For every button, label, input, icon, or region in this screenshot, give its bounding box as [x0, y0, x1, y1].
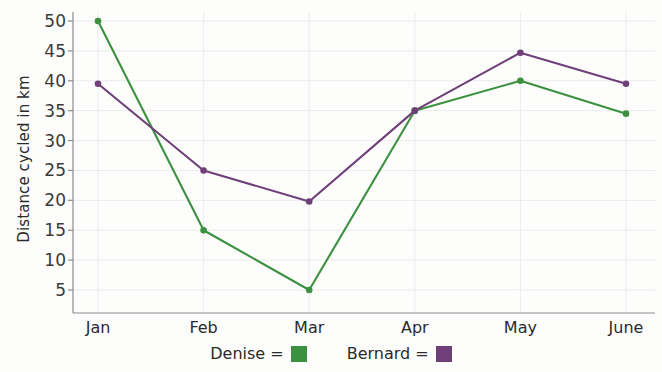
chart-legend: Denise =Bernard =: [0, 344, 662, 363]
data-point-denise: [95, 18, 102, 25]
y-axis-tick-labels: 5101520253035404550: [14, 0, 66, 372]
legend-label: Denise =: [210, 344, 283, 363]
data-point-bernard: [412, 107, 419, 114]
x-tick-label-feb: Feb: [189, 318, 217, 337]
data-point-bernard: [200, 167, 207, 174]
y-tick-label: 30: [22, 131, 66, 151]
y-tick-label: 5: [22, 280, 66, 300]
x-tick-label-mar: Mar: [294, 318, 324, 337]
y-tick-label: 10: [22, 250, 66, 270]
x-tick-label-june: June: [609, 318, 644, 337]
legend-color-swatch: [291, 346, 307, 362]
y-tick-label: 40: [22, 71, 66, 91]
legend-item: Bernard =: [347, 344, 452, 363]
data-point-bernard: [95, 80, 102, 87]
line-chart: Distance cycled in km 510152025303540455…: [0, 0, 662, 372]
x-tick-label-apr: Apr: [401, 318, 429, 337]
data-point-denise: [517, 77, 524, 84]
data-point-bernard: [306, 198, 313, 205]
y-tick-label: 20: [22, 190, 66, 210]
data-point-denise: [200, 227, 207, 234]
y-tick-label: 15: [22, 220, 66, 240]
y-tick-label: 25: [22, 160, 66, 180]
y-tick-label: 50: [22, 11, 66, 31]
data-point-denise: [306, 287, 313, 294]
legend-color-swatch: [436, 346, 452, 362]
x-tick-label-may: May: [504, 318, 537, 337]
y-tick-label: 45: [22, 41, 66, 61]
data-point-denise: [623, 110, 630, 117]
y-tick-label: 35: [22, 101, 66, 121]
data-point-bernard: [517, 49, 524, 56]
legend-item: Denise =: [210, 344, 306, 363]
x-tick-label-jan: Jan: [86, 318, 111, 337]
plot-area: [0, 0, 662, 372]
data-point-bernard: [623, 80, 630, 87]
legend-label: Bernard =: [347, 344, 429, 363]
